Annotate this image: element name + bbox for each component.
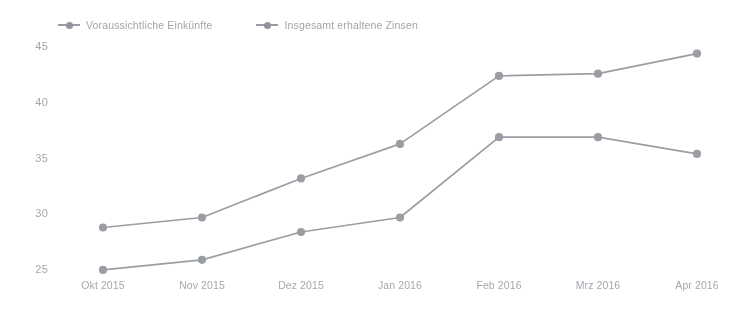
data-point-marker[interactable] xyxy=(297,228,305,236)
series-group xyxy=(99,49,701,231)
data-point-marker[interactable] xyxy=(198,213,206,221)
data-point-marker[interactable] xyxy=(594,70,602,78)
series-layer xyxy=(0,0,753,314)
data-point-marker[interactable] xyxy=(396,140,404,148)
data-point-marker[interactable] xyxy=(396,213,404,221)
plot-area: 4540353025 Okt 2015Nov 2015Dez 2015Jan 2… xyxy=(0,0,753,314)
data-point-marker[interactable] xyxy=(693,49,701,57)
series-line xyxy=(103,137,697,270)
data-point-marker[interactable] xyxy=(594,133,602,141)
data-point-marker[interactable] xyxy=(495,133,503,141)
data-point-marker[interactable] xyxy=(99,266,107,274)
data-point-marker[interactable] xyxy=(99,223,107,231)
data-point-marker[interactable] xyxy=(693,150,701,158)
data-point-marker[interactable] xyxy=(495,72,503,80)
series-group xyxy=(99,133,701,274)
data-point-marker[interactable] xyxy=(297,174,305,182)
data-point-marker[interactable] xyxy=(198,256,206,264)
line-chart: Voraussichtliche Einkünfte Insgesamt erh… xyxy=(0,0,753,314)
